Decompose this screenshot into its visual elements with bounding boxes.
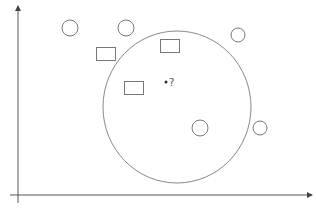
circle-point bbox=[253, 121, 267, 135]
rectangle-point bbox=[161, 40, 180, 53]
circle-point bbox=[62, 20, 78, 36]
rectangle-point bbox=[125, 82, 144, 95]
circle-point bbox=[118, 20, 134, 36]
rectangle-class-points bbox=[97, 40, 180, 95]
circle-class-points bbox=[62, 20, 267, 136]
diagram-canvas: ? bbox=[0, 0, 316, 209]
decision-region-circle bbox=[103, 31, 251, 183]
rectangle-point bbox=[97, 48, 116, 61]
circle-point bbox=[231, 28, 245, 42]
query-point-label: ? bbox=[169, 77, 174, 88]
circle-point bbox=[192, 120, 208, 136]
query-point-dot bbox=[165, 81, 168, 84]
